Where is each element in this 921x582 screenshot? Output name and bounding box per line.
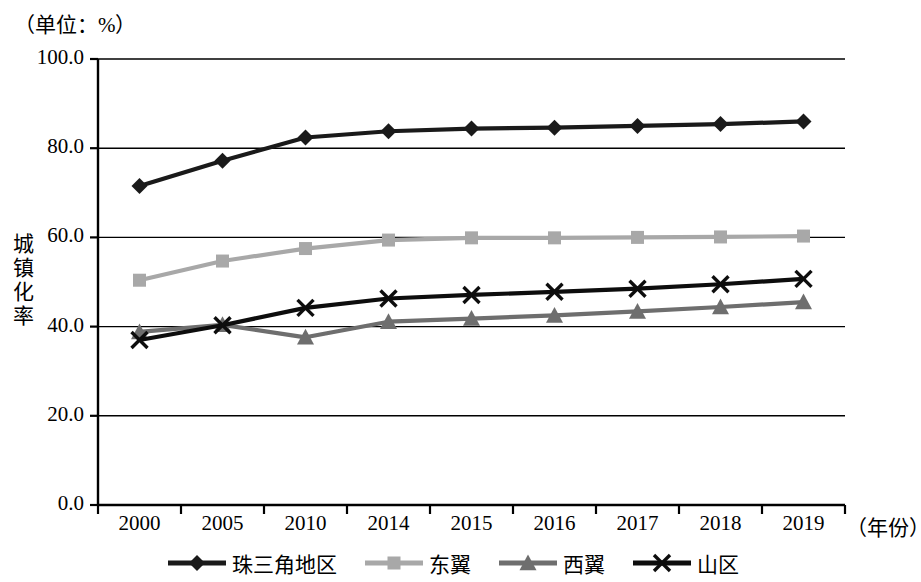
legend-item[interactable]: 山区 (631, 548, 739, 578)
y-tick-label: 80.0 (14, 134, 84, 159)
series-diamond (132, 113, 812, 194)
data-point-marker-square (465, 231, 478, 244)
data-point-marker-square (382, 234, 395, 247)
data-point-marker-square (216, 255, 229, 268)
legend-marker-x-icon (631, 551, 693, 575)
x-tick-label: 2017 (596, 511, 680, 536)
data-point-marker-diamond (464, 121, 480, 137)
legend-label: 东翼 (429, 548, 471, 578)
data-point-marker-square (714, 230, 727, 243)
data-point-marker-square (299, 242, 312, 255)
legend-item[interactable]: 珠三角地区 (166, 548, 337, 578)
x-tick-label: 2016 (513, 511, 597, 536)
data-point-marker-square (797, 230, 810, 243)
data-point-marker-diamond (547, 120, 563, 136)
y-tick-label: 40.0 (14, 313, 84, 338)
data-point-marker-diamond (630, 118, 646, 134)
legend-item[interactable]: 东翼 (363, 548, 471, 578)
data-point-marker-square (548, 231, 561, 244)
y-tick-label: 100.0 (14, 45, 84, 70)
x-tick-label: 2014 (347, 511, 431, 536)
data-point-marker-diamond (381, 123, 397, 139)
data-point-marker-diamond (713, 116, 729, 132)
data-point-marker-diamond (215, 153, 231, 169)
x-tick-label: 2005 (181, 511, 265, 536)
series-triangle (131, 294, 812, 345)
legend-marker-square-icon (363, 551, 425, 575)
data-point-marker-diamond (132, 178, 148, 194)
y-tick-label: 0.0 (14, 491, 84, 516)
data-point-marker-diamond (796, 113, 812, 129)
legend-marker-diamond-icon (166, 551, 228, 575)
x-tick-label: 2018 (679, 511, 763, 536)
legend-label: 珠三角地区 (232, 548, 337, 578)
data-point-marker-square (631, 231, 644, 244)
data-point-marker-square (133, 274, 146, 287)
legend-label: 西翼 (563, 548, 605, 578)
legend-label: 山区 (697, 548, 739, 578)
legend-item[interactable]: 西翼 (497, 548, 605, 578)
x-tick-label: 2000 (98, 511, 182, 536)
data-point-marker-square (387, 557, 400, 570)
chart-legend: 珠三角地区东翼西翼山区 (0, 548, 904, 578)
data-point-marker-diamond (189, 555, 205, 571)
y-tick-label: 20.0 (14, 402, 84, 427)
x-axis-title: （年份） (846, 511, 921, 541)
series-square (133, 230, 810, 287)
x-tick-label: 2015 (430, 511, 514, 536)
legend-marker-triangle-icon (497, 551, 559, 575)
x-tick-label: 2010 (264, 511, 348, 536)
x-tick-label: 2019 (762, 511, 846, 536)
y-tick-label: 60.0 (14, 223, 84, 248)
data-point-marker-diamond (298, 129, 314, 145)
